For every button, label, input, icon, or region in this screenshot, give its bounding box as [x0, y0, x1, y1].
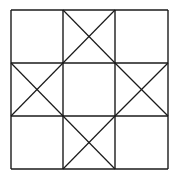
- diagonal-lines: [11, 10, 168, 169]
- star-grid-diagram: [0, 0, 178, 177]
- grid-lines: [11, 10, 168, 169]
